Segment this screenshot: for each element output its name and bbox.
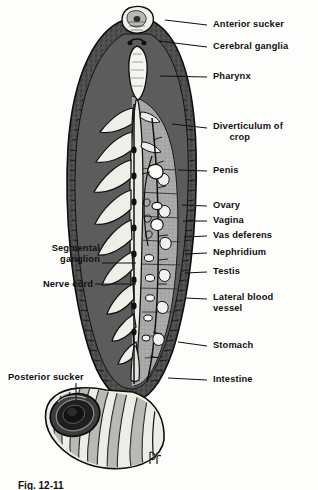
label-nephridium: Nephridium <box>213 247 266 258</box>
label-ovary: Ovary <box>213 200 240 211</box>
posterior-region <box>45 386 164 476</box>
label-posterior-sucker: Posterior sucker <box>8 372 72 383</box>
label-testis: Testis <box>213 266 240 277</box>
label-vagina: Vagina <box>213 215 244 226</box>
label-nerve-cord: Nerve cord <box>22 279 93 290</box>
label-lateral-blood-vessel: Lateral blood vessel <box>213 292 273 313</box>
label-cerebral-ganglia: Cerebral ganglia <box>213 41 288 52</box>
label-stomach: Stomach <box>213 340 253 351</box>
leech-anatomy-figure: Anterior sucker Cerebral ganglia Pharynx… <box>0 0 318 490</box>
leader-anterior-sucker <box>165 20 207 25</box>
leech-body <box>67 6 196 401</box>
label-anterior-sucker: Anterior sucker <box>213 19 284 30</box>
leader-stomach <box>178 342 207 346</box>
leader-intestine <box>168 378 207 380</box>
anterior-sucker <box>122 6 153 33</box>
label-pharynx: Pharynx <box>213 71 251 82</box>
label-segmental-ganglion: Segmental ganglion <box>22 243 100 264</box>
label-vas-deferens: Vas deferens <box>213 230 272 241</box>
figure-caption: Fig. 12-11 <box>18 480 64 490</box>
label-intestine: Intestine <box>213 374 253 385</box>
leader-lateral-blood-vessel <box>185 298 207 299</box>
vagina <box>151 219 163 231</box>
label-penis: Penis <box>213 165 239 176</box>
label-diverticulum-of-crop: Diverticulum of crop <box>213 121 283 142</box>
ovary <box>152 202 162 209</box>
